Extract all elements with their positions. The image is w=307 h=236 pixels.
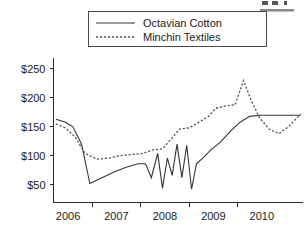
x-tick-label: 2009: [201, 210, 225, 222]
x-tick-label: 2008: [153, 210, 177, 222]
cropped-text-row: [260, 1, 294, 12]
x-tick-label: 2006: [56, 210, 80, 222]
legend-label-minchin-textiles: Minchin Textiles: [143, 31, 221, 43]
x-axis-ticks: [92, 202, 237, 207]
y-tick-label: $150: [21, 121, 45, 133]
y-tick-label: $100: [21, 150, 45, 162]
y-tick-label: $200: [21, 92, 45, 104]
x-tick-label: 2007: [104, 210, 128, 222]
chart-canvas: $50$100$150$200$250 20062007200820092010…: [0, 0, 307, 236]
legend-label-octavian-cotton: Octavian Cotton: [143, 17, 222, 29]
y-axis-ticks: [50, 69, 54, 185]
y-axis-tick-labels: $50$100$150$200$250: [21, 63, 45, 191]
plot-area: $50$100$150$200$250 20062007200820092010: [21, 58, 303, 222]
series-line-minchin-textiles: [56, 81, 301, 160]
line-chart: $50$100$150$200$250 20062007200820092010…: [0, 0, 307, 236]
chart-axes: [54, 58, 304, 202]
y-tick-label: $250: [21, 63, 45, 75]
x-tick-label: 2010: [250, 210, 274, 222]
x-axis-tick-labels: 20062007200820092010: [56, 210, 274, 222]
y-tick-label: $50: [27, 179, 45, 191]
chart-legend: Octavian Cotton Minchin Textiles: [89, 12, 267, 47]
series-line-octavian-cotton: [56, 115, 301, 189]
